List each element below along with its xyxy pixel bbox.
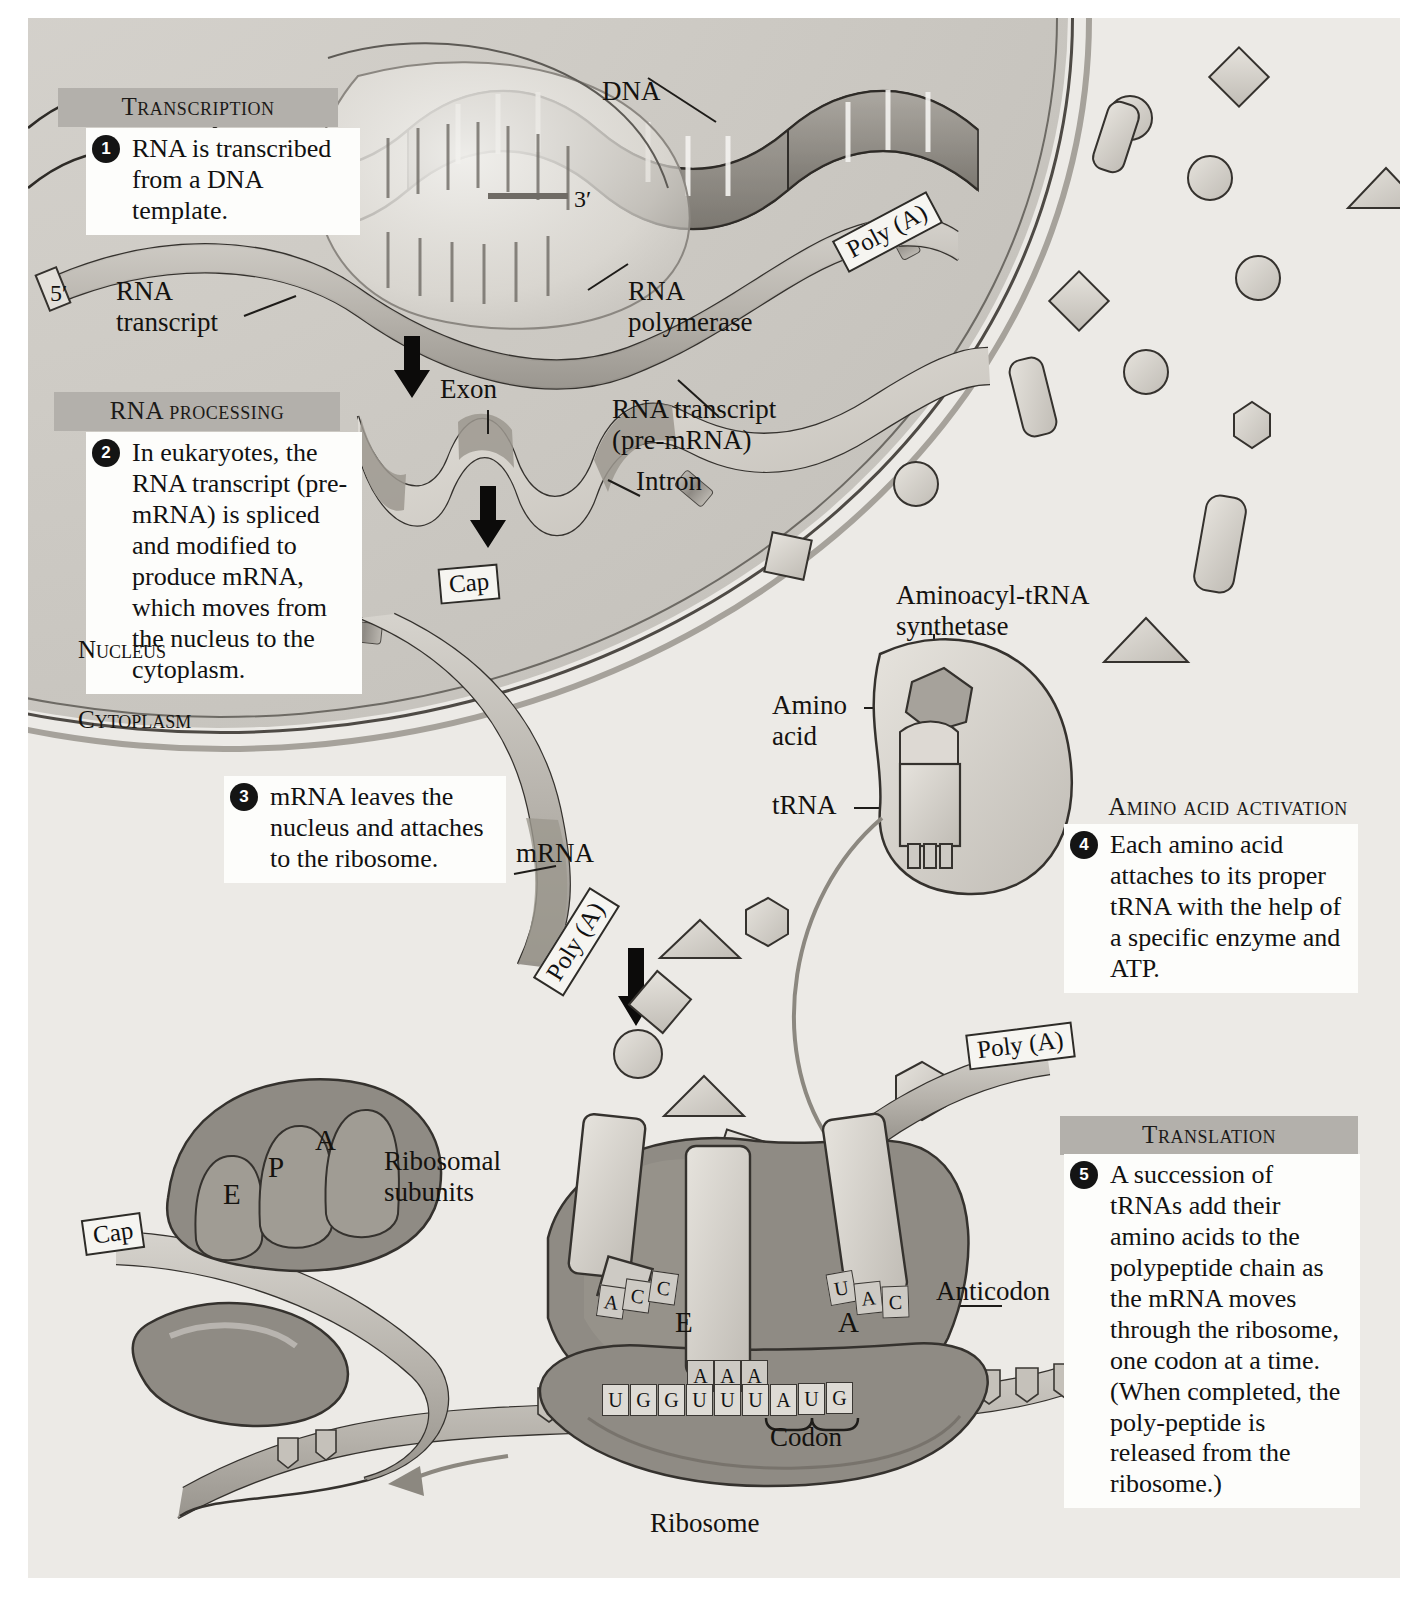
label-dna: DNA (602, 76, 661, 107)
ribosome-site-p: P (268, 1151, 284, 1184)
trna-shape (900, 764, 960, 846)
label-rna-transcript: RNA transcript (116, 276, 218, 338)
label-nucleus: Nucleus (78, 636, 166, 665)
anticodon-letter: C (648, 1270, 679, 1305)
mrna-letter: U (798, 1383, 825, 1415)
label-three-prime: 3′ (574, 186, 591, 213)
ribosome-site-a: A (315, 1124, 336, 1157)
label-cytoplasm: Cytoplasm (78, 706, 191, 735)
step-number-5: 5 (1070, 1161, 1098, 1189)
label-rna-transcript-premrna: RNA transcript (pre-mRNA) (612, 394, 776, 456)
mrna-letter: G (658, 1384, 685, 1416)
assembled-ribosome-site-e: E (675, 1306, 693, 1339)
mrna-letter: U (714, 1384, 741, 1416)
step-callout-3: 3 mRNA leaves the nucleus and attaches t… (224, 776, 506, 883)
step-number-3: 3 (230, 783, 258, 811)
figure-page: A C C A A A U A C U G G U U U A U G E P … (0, 0, 1425, 1602)
section-header-translation: Translation (1060, 1116, 1358, 1155)
mrna-letter: A (770, 1384, 797, 1416)
label-amino-acid: Amino acid (772, 690, 847, 752)
step-number-1: 1 (92, 135, 120, 163)
ribosome-site-e: E (223, 1178, 241, 1211)
step-callout-5: 5 A succession of tRNAs add their amino … (1064, 1154, 1360, 1508)
label-intron: Intron (636, 466, 702, 497)
label-codon: Codon (770, 1422, 842, 1453)
step-text-4: Each amino acid attaches to its proper t… (1110, 830, 1341, 983)
label-anticodon: Anticodon (936, 1276, 1050, 1307)
mrna-letter: G (630, 1384, 657, 1416)
step-text-3: mRNA leaves the nucleus and attaches to … (270, 782, 484, 873)
step-callout-4: 4 Each amino acid attaches to its proper… (1064, 824, 1358, 993)
section-header-rna-processing: RNA processing (54, 392, 340, 431)
label-mrna: mRNA (516, 838, 594, 869)
anticodon-letter: U (825, 1270, 857, 1306)
mrna-letter: U (742, 1384, 769, 1416)
label-ribosome: Ribosome (650, 1508, 760, 1539)
anticodon-letter: C (881, 1286, 909, 1319)
assembled-ribosome-site-a: A (838, 1306, 859, 1339)
label-ribosomal-subunits: Ribosomal subunits (384, 1146, 501, 1208)
section-header-amino-acid-activation: Amino acid activation (1058, 788, 1398, 827)
section-header-transcription: Transcription (58, 88, 338, 127)
small-subunit-shape (133, 1303, 348, 1426)
step-number-4: 4 (1070, 831, 1098, 859)
step-callout-1: 1 RNA is transcribed from a DNA template… (86, 128, 360, 235)
step-number-2: 2 (92, 439, 120, 467)
illustration-plate: A C C A A A U A C U G G U U U A U G E P … (28, 18, 1400, 1578)
aminoacyl-trna-synthetase (874, 639, 1072, 894)
cap-label-nucleus: Cap (438, 563, 501, 604)
step-text-5: A succession of tRNAs add their amino ac… (1110, 1160, 1340, 1498)
label-exon: Exon (440, 374, 497, 405)
label-rna-polymerase: RNA polymerase (628, 276, 752, 338)
label-five-prime: 5′ (50, 280, 67, 307)
label-trna: tRNA (772, 790, 837, 821)
step-text-1: RNA is transcribed from a DNA template. (132, 134, 331, 225)
mrna-letter: U (602, 1384, 629, 1416)
mrna-letter: G (826, 1382, 853, 1414)
mrna-letter: U (686, 1384, 713, 1416)
label-aminoacyl-trna-synthetase: Aminoacyl-tRNA synthetase (896, 580, 1089, 642)
